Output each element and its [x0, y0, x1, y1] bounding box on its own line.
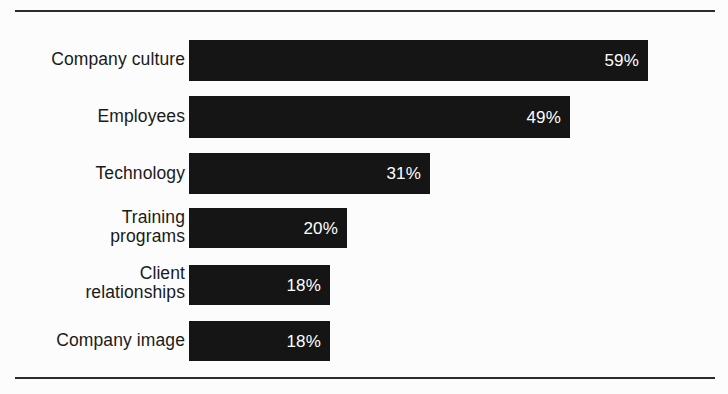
- bar-category-label: Technology: [10, 164, 185, 183]
- bar-employees: 49%: [189, 96, 570, 138]
- bar-track: 18%: [189, 321, 330, 361]
- bar-track: 20%: [189, 208, 347, 248]
- bar-training-programs: 20%: [189, 208, 347, 248]
- bar-row: Employees 49%: [0, 96, 728, 138]
- bar-company-image: 18%: [189, 321, 330, 361]
- bar-company-culture: 59%: [189, 40, 648, 81]
- bar-category-label: Client relationships: [10, 264, 185, 302]
- bar-track: 31%: [189, 153, 430, 194]
- bar-row: Client relationships 18%: [0, 265, 728, 305]
- bar-row: Training programs 20%: [0, 208, 728, 248]
- bar-value-label: 31%: [386, 165, 430, 182]
- bar-value-label: 18%: [286, 333, 330, 350]
- bar-track: 49%: [189, 96, 570, 138]
- bar-value-label: 49%: [526, 109, 570, 126]
- bar-track: 59%: [189, 40, 648, 81]
- bar-row: Company culture 59%: [0, 40, 728, 81]
- bar-value-label: 59%: [604, 52, 648, 69]
- bar-category-label: Training programs: [10, 208, 185, 246]
- bar-category-label: Company culture: [10, 50, 185, 69]
- bar-value-label: 20%: [303, 220, 347, 237]
- bar-row: Technology 31%: [0, 153, 728, 194]
- bar-chart-figure: Company culture 59% Employees 49% Techno…: [0, 0, 728, 394]
- bar-category-label: Employees: [10, 107, 185, 126]
- bar-category-label: Company image: [10, 331, 185, 350]
- bar-track: 18%: [189, 265, 330, 305]
- chart-plot-area: Company culture 59% Employees 49% Techno…: [0, 0, 728, 394]
- bar-technology: 31%: [189, 153, 430, 194]
- bottom-rule-divider: [15, 377, 715, 379]
- bar-row: Company image 18%: [0, 321, 728, 361]
- bar-value-label: 18%: [286, 277, 330, 294]
- bar-client-relationships: 18%: [189, 265, 330, 305]
